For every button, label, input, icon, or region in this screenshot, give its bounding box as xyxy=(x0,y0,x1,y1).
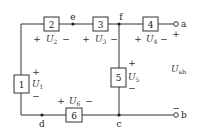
node-f-label: f xyxy=(119,12,123,22)
node-d-dot xyxy=(40,113,43,116)
u4-minus-sign: − xyxy=(160,34,168,44)
u1-label: U1 xyxy=(32,79,43,90)
element-1: 1 xyxy=(14,75,29,93)
u5-label: U5 xyxy=(128,72,140,83)
element-5: 5 xyxy=(111,68,126,87)
terminal-a-label: a xyxy=(181,19,187,29)
node-f-dot xyxy=(117,22,120,25)
element-6: 6 xyxy=(66,108,82,122)
u2-label: U2 xyxy=(46,34,58,45)
u2-minus-sign: − xyxy=(62,34,70,44)
u1-minus-sign: − xyxy=(32,91,40,101)
u4-plus-sign: + xyxy=(134,34,142,44)
u1-plus-sign: + xyxy=(32,67,40,77)
u5-minus-sign: − xyxy=(128,83,136,93)
u4-label: U4 xyxy=(146,34,158,45)
element-3: 3 xyxy=(93,17,108,31)
terminal-b-label: b xyxy=(181,110,187,120)
u3-label: U3 xyxy=(95,34,107,45)
circuit-diagram: 1 2 3 4 5 6 e f d c a + b − + U2 − + U3 … xyxy=(0,0,197,135)
node-c-dot xyxy=(117,113,120,116)
u3-plus-sign: + xyxy=(82,34,90,44)
uab-label: Uab xyxy=(171,64,186,75)
element-4: 4 xyxy=(143,17,158,31)
node-e-dot xyxy=(71,22,74,25)
element-6-label: 6 xyxy=(71,111,77,121)
terminal-a xyxy=(174,22,179,27)
terminal-a-plus-sign: + xyxy=(172,29,180,39)
element-3-label: 3 xyxy=(98,20,104,30)
u3-minus-sign: − xyxy=(110,34,118,44)
element-2-label: 2 xyxy=(49,20,55,30)
u6-plus-sign: + xyxy=(57,96,65,106)
u2-plus-sign: + xyxy=(33,34,41,44)
terminal-b-minus-sign: − xyxy=(172,103,180,113)
u5-plus-sign: + xyxy=(128,58,136,68)
element-5-label: 5 xyxy=(116,73,122,83)
node-e-label: e xyxy=(70,12,75,22)
element-1-label: 1 xyxy=(19,80,25,90)
element-4-label: 4 xyxy=(148,20,154,30)
u6-label: U6 xyxy=(69,96,81,107)
u6-minus-sign: − xyxy=(85,96,93,106)
element-2: 2 xyxy=(44,17,59,31)
node-d-label: d xyxy=(39,119,45,129)
terminal-b xyxy=(174,113,179,118)
node-c-label: c xyxy=(116,119,121,129)
